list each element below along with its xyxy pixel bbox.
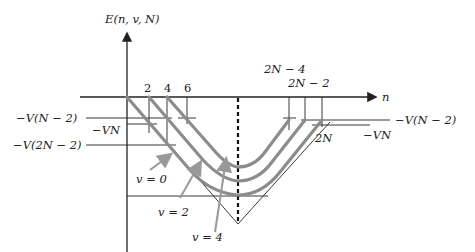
- y-axis-label: E(n, v, N): [104, 12, 160, 26]
- energy-level-diagram: E(n, v, N) n 2 4 6 2N − 4 2N − 2 2N −V(N…: [0, 0, 475, 252]
- tick-label-2n: 2N: [314, 131, 333, 145]
- x-axis-label: n: [382, 90, 389, 104]
- curve-label-v4: v = 4: [192, 230, 223, 244]
- left-level-label-v2n2: −V(2N − 2): [13, 138, 82, 152]
- tick-label-2n-4: 2N − 4: [263, 62, 306, 76]
- right-level-label-vn2: −V(N − 2): [395, 113, 456, 127]
- arrow-v0: [150, 155, 170, 170]
- left-level-label-vn: −VN: [92, 123, 121, 137]
- tick-label-6: 6: [184, 81, 191, 95]
- curve-v4: [167, 97, 289, 167]
- right-level-label-vn: −VN: [363, 128, 392, 142]
- tick-label-2n-2: 2N − 2: [287, 76, 330, 90]
- left-level-label-vn2: −V(N − 2): [16, 111, 77, 125]
- tick-label-4: 4: [164, 81, 171, 95]
- curve-label-v0: v = 0: [136, 172, 167, 186]
- curve-label-v2: v = 2: [158, 205, 189, 219]
- tick-label-2: 2: [144, 81, 151, 95]
